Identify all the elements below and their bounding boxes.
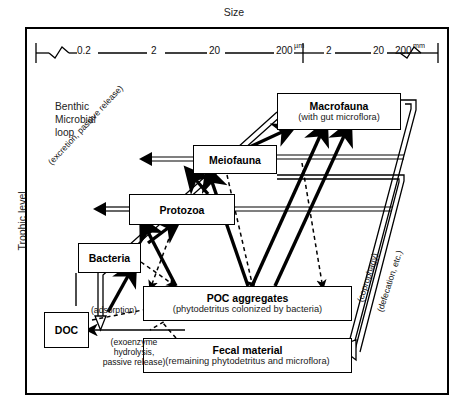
node-poc-aggregates[interactable]: POC aggregates (phytodetritus colonized …: [143, 286, 352, 321]
node-doc[interactable]: DOC: [44, 312, 89, 348]
return-channel-inner: [277, 175, 404, 352]
return-channel-outer: [347, 100, 416, 352]
fecal-title: Fecal material: [212, 344, 282, 356]
scale-tick-3: 200: [276, 45, 293, 56]
size-scale-bar: 0.2 2 20 200 µm 2 20 200 mm: [35, 40, 439, 66]
scale-tick-6: 200: [395, 45, 412, 56]
macrofauna-subtitle: (with gut microflora): [298, 112, 380, 123]
node-macrofauna[interactable]: Macrofauna (with gut microflora): [277, 93, 401, 130]
node-meiofauna[interactable]: Meiofauna: [193, 145, 277, 174]
scale-unit-millimetre: mm: [413, 41, 425, 50]
node-bacteria[interactable]: Bacteria: [78, 243, 141, 273]
exoenzyme-annotation: (exoenzyme hydrolysis, passive release): [88, 337, 180, 367]
scale-unit-micrometre: µm: [294, 41, 304, 50]
protozoa-title: Protozoa: [160, 204, 205, 216]
meiofauna-title: Meiofauna: [209, 154, 261, 166]
adsorption-annotation: (adsorption): [91, 305, 137, 315]
bacteria-title: Bacteria: [89, 252, 130, 264]
macrofauna-title: Macrofauna: [310, 100, 369, 112]
node-protozoa[interactable]: Protozoa: [129, 194, 235, 225]
scale-tick-0: 0.2: [77, 45, 91, 56]
poc-subtitle: (phytodetritus colonized by bacteria): [173, 304, 322, 315]
scale-tick-1: 2: [151, 45, 157, 56]
poc-title: POC aggregates: [207, 292, 289, 304]
scale-tick-5: 20: [373, 45, 384, 56]
doc-title: DOC: [55, 324, 78, 336]
fecal-subtitle: (remaining phytodetritus and microflora): [165, 356, 329, 367]
protozoa-excretion-head: [93, 202, 106, 216]
scale-tick-4: 2: [326, 45, 332, 56]
figure-canvas: Size Trophic level 0.2: [0, 0, 468, 413]
meiofauna-excretion-head: [139, 152, 152, 166]
scale-tick-2: 20: [209, 45, 220, 56]
